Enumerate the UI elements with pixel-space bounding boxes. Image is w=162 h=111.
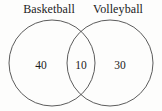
- basketball-only-count: 40: [27, 59, 55, 71]
- intersection-count: 10: [71, 59, 91, 71]
- volleyball-only-count: 30: [106, 59, 134, 71]
- volleyball-set-label: Volleyball: [74, 2, 162, 17]
- venn-diagram-figure: Basketball Volleyball 40 10 30: [0, 0, 162, 111]
